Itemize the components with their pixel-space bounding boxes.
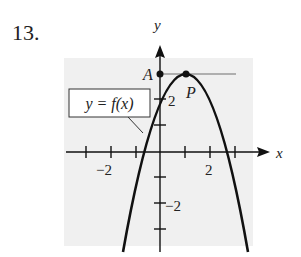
graph: y x A P 2 −2 −2 2 y = f(x) [0,0,301,257]
x-axis-label: x [275,145,283,161]
y-tick-label-neg2: −2 [165,198,181,214]
point-p-label: P [185,84,196,101]
curve-label: y = f(x) [83,95,133,113]
x-tick-label-2: 2 [205,162,213,178]
point-a-label: A [142,66,153,83]
y-tick-label-2: 2 [168,93,176,109]
point-a-marker [157,71,164,78]
x-tick-label-neg2: −2 [96,162,112,178]
y-axis-label: y [152,17,161,33]
point-p-marker [183,71,190,78]
